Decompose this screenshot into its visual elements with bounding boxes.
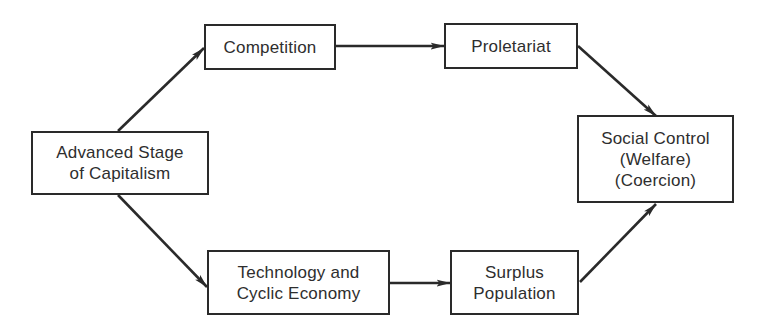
arrow-advanced-to-technology (118, 195, 207, 287)
node-label-line: Cyclic Economy (237, 283, 361, 304)
node-proletariat: Proletariat (444, 23, 578, 69)
node-label-line: of Capitalism (70, 163, 171, 184)
node-label-line: Competition (224, 37, 317, 58)
node-label-line: (Welfare) (620, 149, 691, 170)
node-competition: Competition (204, 24, 336, 70)
node-technology-and-cyclic-economy: Technology and Cyclic Economy (207, 250, 390, 315)
flow-diagram: Advanced Stage of Capitalism Competition… (0, 0, 762, 333)
node-label-line: Surplus (485, 262, 544, 283)
arrow-proletariat-to-social-control (578, 46, 656, 116)
node-label-line: Social Control (601, 128, 710, 149)
node-label-line: Population (473, 283, 555, 304)
node-label-line: Advanced Stage (56, 142, 184, 163)
arrow-surplus-to-social-control (580, 204, 656, 282)
node-social-control: Social Control (Welfare) (Coercion) (577, 115, 734, 203)
arrow-advanced-to-competition (118, 48, 204, 131)
node-label-line: (Coercion) (615, 170, 696, 191)
node-label-line: Technology and (238, 262, 360, 283)
node-surplus-population: Surplus Population (450, 250, 579, 315)
node-advanced-stage-of-capitalism: Advanced Stage of Capitalism (31, 131, 209, 195)
node-label-line: Proletariat (471, 36, 551, 57)
